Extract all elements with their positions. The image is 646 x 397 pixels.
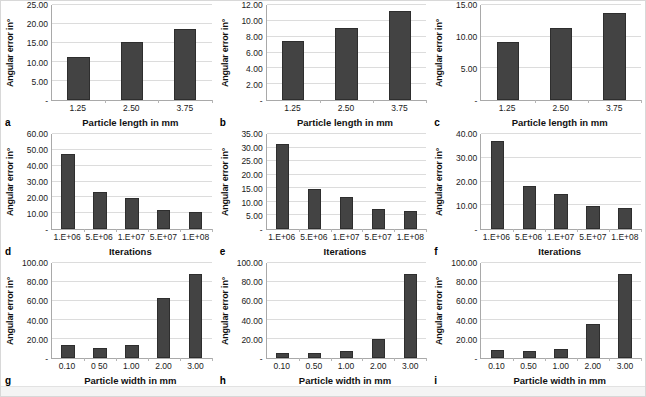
x-tick-mark	[641, 358, 642, 361]
x-tick-mark	[426, 358, 427, 361]
y-tick-label: 10.00	[241, 198, 262, 208]
x-tick-label: 5.E+06	[298, 232, 330, 242]
y-tick-label: 10.00	[456, 32, 477, 42]
plot-area	[266, 263, 427, 359]
bar-series	[267, 263, 427, 358]
panel-letter-i: i	[434, 375, 437, 386]
y-axis-ticks: -20.0040.0060.0080.00100.00	[17, 263, 51, 359]
y-tick-label: 4.00	[246, 64, 263, 74]
bar	[282, 41, 304, 100]
y-tick-label: 40.00	[27, 316, 48, 326]
bar-slot	[158, 5, 211, 100]
y-tick-label: 10.00	[27, 58, 48, 68]
y-axis-label-text: Angular error in°	[5, 277, 15, 345]
panel-letter-c: c	[434, 117, 440, 128]
x-tick-mark	[116, 358, 117, 361]
x-tick-mark	[577, 358, 578, 361]
bar-slot	[609, 263, 641, 358]
y-axis-label: Angular error in°	[218, 263, 232, 359]
x-axis-title: Particle length in mm	[51, 117, 210, 128]
x-tick-mark	[212, 229, 213, 232]
bar-slot	[481, 263, 513, 358]
figure-bottom-edge	[1, 386, 645, 396]
panel-letter-b: b	[220, 117, 226, 128]
bar-slot	[180, 263, 212, 358]
y-tick-label: 5.00	[461, 64, 478, 74]
x-tick-mark	[609, 229, 610, 232]
bar	[550, 28, 572, 100]
panel-letter-d: d	[5, 246, 11, 257]
bar	[189, 212, 202, 229]
chart-panel-i: Angular error in°-20.0040.0060.0080.0010…	[430, 259, 645, 388]
bar-slot	[116, 263, 148, 358]
x-tick-label: 0 50	[83, 361, 115, 371]
x-tick-label: 3.75	[373, 103, 427, 113]
x-tick-label: 1.00	[115, 361, 147, 371]
bar	[125, 345, 138, 358]
bar	[586, 206, 599, 229]
x-tick-label: 5.E+07	[362, 232, 394, 242]
y-axis-ticks: -5.0010.0015.0020.0025.00	[17, 5, 51, 101]
bar-slot	[362, 134, 394, 229]
bar-series	[481, 5, 641, 100]
x-tick-label: 2.50	[105, 103, 159, 113]
y-tick-label: -	[260, 354, 263, 364]
y-axis-ticks: -5.0010.0015.00	[446, 5, 480, 101]
y-axis-ticks: -2.004.006.008.0010.0012.00	[232, 5, 266, 101]
bar-slot	[331, 263, 363, 358]
bar-slot	[588, 5, 641, 100]
x-tick-mark	[299, 229, 300, 232]
x-tick-mark	[535, 100, 536, 103]
bar-slot	[105, 5, 158, 100]
y-tick-label: 20.00	[27, 193, 48, 203]
x-tick-mark	[545, 358, 546, 361]
x-tick-mark	[180, 358, 181, 361]
x-axis-ticks: 0.100.501.002.003.00	[266, 361, 427, 371]
y-axis-label-text: Angular error in°	[5, 148, 15, 216]
bar-slot	[577, 134, 609, 229]
bar-slot	[180, 134, 212, 229]
plot-area	[480, 5, 641, 101]
x-tick-label: 2.00	[362, 361, 394, 371]
bar	[523, 351, 536, 358]
y-axis-label: Angular error in°	[3, 263, 17, 359]
x-tick-mark	[577, 229, 578, 232]
x-tick-mark	[84, 229, 85, 232]
x-tick-mark	[299, 358, 300, 361]
y-tick-label: 10.00	[27, 209, 48, 219]
bar-slot	[331, 134, 363, 229]
bar	[93, 348, 106, 358]
plot-area	[51, 134, 212, 230]
y-tick-label: 35.00	[241, 129, 262, 139]
bar-series	[267, 134, 427, 229]
bar-series	[481, 134, 641, 229]
x-tick-label: 3.00	[609, 361, 641, 371]
bar-slot	[513, 263, 545, 358]
x-tick-label: 1.E+06	[480, 232, 512, 242]
bar-series	[52, 134, 212, 229]
y-tick-label: 6.00	[246, 48, 263, 58]
bar	[125, 198, 138, 229]
bar-slot	[267, 5, 320, 100]
bar	[157, 298, 170, 358]
plot-area	[51, 263, 212, 359]
y-axis-ticks: -10.0020.0030.0040.0050.0060.00	[17, 134, 51, 230]
y-tick-label: 5.00	[246, 211, 263, 221]
bar-slot	[148, 263, 180, 358]
y-tick-label: 15.00	[241, 184, 262, 194]
bar-slot	[513, 134, 545, 229]
x-axis-title: Particle width in mm	[480, 375, 639, 386]
x-tick-mark	[320, 100, 321, 103]
x-axis-ticks: 1.252.503.75	[480, 103, 641, 113]
bar-slot	[394, 134, 426, 229]
x-tick-label: 2.50	[534, 103, 588, 113]
y-tick-label: 15.00	[456, 0, 477, 10]
bar-series	[481, 263, 641, 358]
x-tick-mark	[513, 229, 514, 232]
panel-grid: Angular error in°-5.0010.0015.0020.0025.…	[1, 1, 645, 388]
x-tick-mark	[373, 100, 374, 103]
y-tick-label: 80.00	[27, 277, 48, 287]
x-tick-label: 1.E+07	[115, 232, 147, 242]
x-axis-title: Particle width in mm	[51, 375, 210, 386]
y-tick-label: -	[260, 96, 263, 106]
